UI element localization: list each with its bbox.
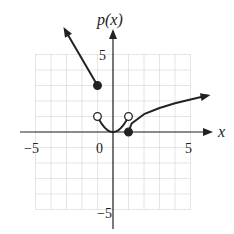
tick-y-neg5: −5 (97, 206, 112, 221)
tick-x-neg5: −5 (24, 141, 39, 156)
tick-y-5: 5 (99, 48, 106, 63)
arrowhead-icon (63, 27, 71, 38)
function-graph: p(x) x −5 0 5 5 −5 (0, 0, 234, 234)
x-axis-label: x (217, 123, 225, 140)
tick-x-5: 5 (185, 141, 192, 156)
y-axis-label: p(x) (96, 11, 123, 29)
arrowhead-icon (200, 93, 211, 101)
tick-x-0: 0 (96, 141, 103, 156)
closed-point (125, 128, 133, 136)
open-point (94, 113, 102, 121)
open-point (125, 113, 133, 121)
y-axis-arrow-icon (109, 29, 117, 39)
closed-point (94, 82, 102, 90)
x-axis-arrow-icon (203, 128, 213, 136)
curve-segment (65, 30, 98, 86)
curves (63, 27, 210, 136)
